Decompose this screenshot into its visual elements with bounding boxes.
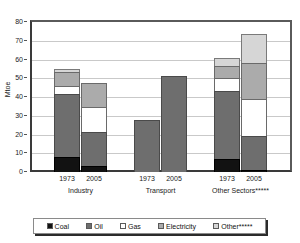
y-axis: 80706050403020100 (0, 20, 27, 172)
legend-label: Oil (94, 223, 103, 230)
bar-segment-oil (241, 136, 267, 172)
bar-segment-oil (134, 120, 160, 172)
legend-label: Gas (128, 223, 141, 230)
bar-segment-electricity (54, 72, 80, 87)
y-tick-mark (24, 96, 27, 97)
legend-item: Oil (86, 223, 103, 230)
stacked-bar-chart: Mtoe 80706050403020100 19732005197320051… (0, 0, 300, 243)
y-tick-mark (24, 40, 27, 41)
y-tick-label: 0 (19, 168, 23, 175)
x-year-label: 2005 (86, 175, 102, 182)
x-year-label: 2005 (246, 175, 262, 182)
x-year-label: 2005 (166, 175, 182, 182)
y-tick-mark (24, 77, 27, 78)
x-group-label: Industry (68, 187, 93, 194)
bar-segment-gas (241, 99, 267, 137)
y-tick-mark (24, 171, 27, 172)
legend-swatch-icon (158, 223, 164, 229)
bar-segment-electricity (81, 83, 107, 107)
bar-segment-electricity (241, 63, 267, 101)
y-tick-mark (24, 134, 27, 135)
y-tick-label: 50 (15, 74, 23, 81)
legend-swatch-icon (120, 223, 126, 229)
legend-item: Coal (47, 223, 69, 230)
y-tick-label: 70 (15, 36, 23, 43)
bar-segment-oil (161, 76, 187, 172)
legend-label: Electricity (166, 223, 196, 230)
x-year-label: 1973 (219, 175, 235, 182)
bar-industry-1973 (54, 64, 80, 171)
bar-industry-2005 (81, 79, 107, 171)
bar-transport-1973 (134, 119, 160, 171)
bar-segment-oil (54, 94, 80, 158)
legend-item: Electricity (158, 223, 196, 230)
bar-segment-other (241, 34, 267, 64)
legend-swatch-icon (47, 223, 53, 229)
y-tick-label: 10 (15, 149, 23, 156)
x-year-label: 1973 (139, 175, 155, 182)
bars-layer (32, 21, 290, 171)
bar-segment-coal (241, 170, 267, 172)
y-tick-label: 80 (15, 18, 23, 25)
bar-segment-gas (81, 107, 107, 133)
y-tick-label: 60 (15, 55, 23, 62)
bar-segment-coal (81, 166, 107, 172)
y-tick-mark (24, 59, 27, 60)
legend-swatch-icon (213, 223, 219, 229)
x-group-label: Other Sectors***** (212, 187, 269, 194)
bar-segment-coal (54, 157, 80, 172)
bar-segment-coal (214, 159, 240, 172)
legend-item: Gas (120, 223, 141, 230)
bar-segment-oil (81, 132, 107, 168)
legend-swatch-icon (86, 223, 92, 229)
y-tick-label: 40 (15, 93, 23, 100)
legend-label: Coal (55, 223, 69, 230)
x-year-label: 1973 (59, 175, 75, 182)
y-tick-label: 20 (15, 130, 23, 137)
legend-label: Other***** (221, 223, 252, 230)
bar-transport-2005 (161, 75, 187, 171)
y-tick-label: 30 (15, 111, 23, 118)
bar-other-sectors--1973 (214, 53, 240, 171)
y-tick-mark (24, 152, 27, 153)
bar-other-sectors--2005 (241, 29, 267, 172)
bar-segment-oil (214, 91, 240, 160)
x-axis: 197320051973200519732005IndustryTranspor… (32, 175, 290, 205)
y-tick-mark (24, 115, 27, 116)
chart-legend: CoalOilGasElectricityOther***** (33, 218, 266, 234)
legend-item: Other***** (213, 223, 252, 230)
y-tick-mark (24, 21, 27, 22)
x-group-label: Transport (146, 187, 176, 194)
